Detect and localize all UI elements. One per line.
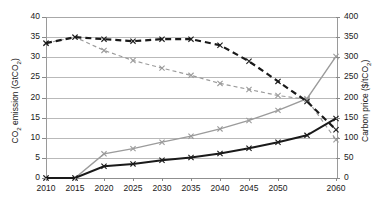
y-axis-left-tickmark [42, 118, 46, 119]
y-axis-left-tickmark [42, 17, 46, 18]
y-axis-right-tick-0: 0 [344, 172, 370, 182]
y-axis-right-tickmark [336, 158, 340, 159]
x-axis-tickmark [220, 178, 221, 181]
y-axis-right-tick-100: 100 [344, 132, 370, 142]
gridline [47, 178, 337, 179]
x-axis-tick-2060: 2060 [319, 183, 353, 193]
x-axis-tickmark [133, 178, 134, 181]
series-price-black-solid [43, 116, 338, 181]
y-axis-right-tickmark [336, 17, 340, 18]
chart-container: CO2 emission (GtCO2) Carbon price ($/tCO… [0, 0, 384, 210]
y-axis-right-tickmark [336, 57, 340, 58]
y-axis-right-tick-250: 250 [344, 71, 370, 81]
x-axis-tickmark [75, 178, 76, 181]
series-emission-gray-dashed [43, 35, 338, 143]
y-axis-right-tickmark [336, 37, 340, 38]
x-axis-tickmark [46, 178, 47, 181]
y-axis-right-tickmark [336, 77, 340, 78]
y-axis-left-tick-0: 0 [14, 172, 40, 182]
y-axis-left-tickmark [42, 158, 46, 159]
x-axis-tickmark [162, 178, 163, 181]
series-layer [46, 17, 336, 178]
y-axis-left-tick-5: 5 [14, 152, 40, 162]
x-axis-tickmark [278, 178, 279, 181]
y-axis-left-tick-10: 10 [14, 132, 40, 142]
y-axis-right-tickmark [336, 98, 340, 99]
series-price-gray-solid [43, 54, 338, 181]
y-axis-left-tickmark [42, 138, 46, 139]
x-axis-tickmark [336, 178, 337, 181]
y-axis-left-tick-15: 15 [14, 112, 40, 122]
y-axis-left-tick-35: 35 [14, 31, 40, 41]
x-axis-tick-2050: 2050 [261, 183, 295, 193]
series-emission-black-dashed [43, 35, 338, 133]
x-axis-tickmark [191, 178, 192, 181]
y-axis-right-tick-150: 150 [344, 112, 370, 122]
y-axis-right-tick-300: 300 [344, 51, 370, 61]
y-axis-right-tick-400: 400 [344, 11, 370, 21]
y-axis-left-tick-20: 20 [14, 92, 40, 102]
y-axis-left-tickmark [42, 98, 46, 99]
y-axis-left-tick-40: 40 [14, 11, 40, 21]
y-axis-right-tick-200: 200 [344, 92, 370, 102]
x-axis-tickmark [104, 178, 105, 181]
y-axis-right-tick-350: 350 [344, 31, 370, 41]
y-axis-left-tick-30: 30 [14, 51, 40, 61]
y-axis-left-tickmark [42, 37, 46, 38]
y-axis-right-tickmark [336, 138, 340, 139]
y-axis-right-tickmark [336, 118, 340, 119]
y-axis-left-tickmark [42, 57, 46, 58]
y-axis-left-tickmark [42, 77, 46, 78]
y-axis-left-tick-25: 25 [14, 71, 40, 81]
x-axis-tickmark [249, 178, 250, 181]
y-axis-right-tick-50: 50 [344, 152, 370, 162]
